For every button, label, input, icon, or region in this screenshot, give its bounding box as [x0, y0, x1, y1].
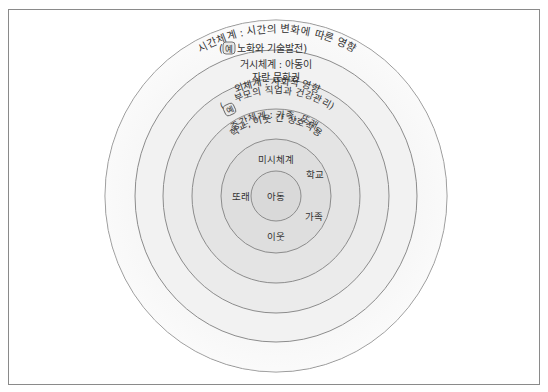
micro-school-label: 학교 [306, 169, 324, 180]
example-badge: 예 [225, 44, 233, 54]
svg-text:(: ( [219, 43, 223, 54]
micro-family-label: 가족 [305, 211, 323, 222]
micro-neighbors-label: 이웃 [267, 231, 285, 242]
ecological-systems-diagram: 시간체계 : 시간의 변화에 따른 영향 ( 예 노화와 기술발전) 거시체계 … [0, 0, 548, 392]
macrosystem-label: 거시체계 : 아동이 [240, 59, 313, 70]
chronosystem-example: ( 예 노화와 기술발전) [219, 42, 307, 54]
microsystem-label: 미시체계 [258, 154, 294, 165]
svg-text:노화와 기술발전): 노화와 기술발전) [237, 43, 307, 54]
micro-peers-label: 또래 [232, 191, 250, 202]
child-label: 아동 [267, 191, 285, 202]
